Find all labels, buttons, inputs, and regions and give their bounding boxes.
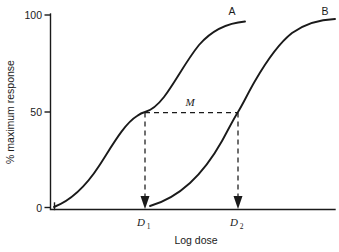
d2-label: D [229, 216, 238, 228]
d1-label: D [136, 216, 145, 228]
figure-root: 100 50 0 Log dose % maximum response M D… [0, 0, 339, 252]
annotation-d1-group: D 1 [136, 113, 151, 231]
y-axis-tick-labels: 100 50 0 [24, 9, 42, 214]
y-tick-label-0: 0 [36, 202, 42, 214]
d2-arrow-head [234, 196, 243, 209]
curve-label-a: A [228, 5, 235, 17]
y-axis-title: % maximum response [4, 60, 16, 164]
annotation-d2-group: D 2 [229, 113, 244, 231]
y-axis-ticks [45, 15, 51, 208]
d1-arrow-head [141, 196, 150, 209]
d1-label-subscript: 1 [147, 222, 151, 231]
curve-series-a [54, 22, 245, 208]
x-axis-title: Log dose [174, 234, 217, 246]
annotation-m-group: M [145, 96, 238, 113]
y-tick-label-100: 100 [24, 9, 42, 21]
d2-label-subscript: 2 [240, 222, 244, 231]
m-label: M [184, 96, 195, 108]
curve-series-b [150, 19, 335, 206]
y-tick-label-50: 50 [30, 106, 42, 118]
dose-response-chart: 100 50 0 Log dose % maximum response M D… [0, 0, 339, 252]
curve-label-b: B [321, 5, 328, 17]
